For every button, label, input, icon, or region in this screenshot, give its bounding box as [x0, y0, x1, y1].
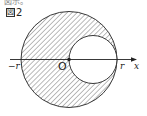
origin-label: O: [58, 60, 67, 73]
pos-r-label: r: [120, 61, 124, 71]
origin-dot: [67, 58, 71, 62]
x-axis-label: x: [134, 61, 139, 71]
circle-diagram: [0, 0, 147, 116]
neg-r-label: −r: [8, 61, 20, 71]
